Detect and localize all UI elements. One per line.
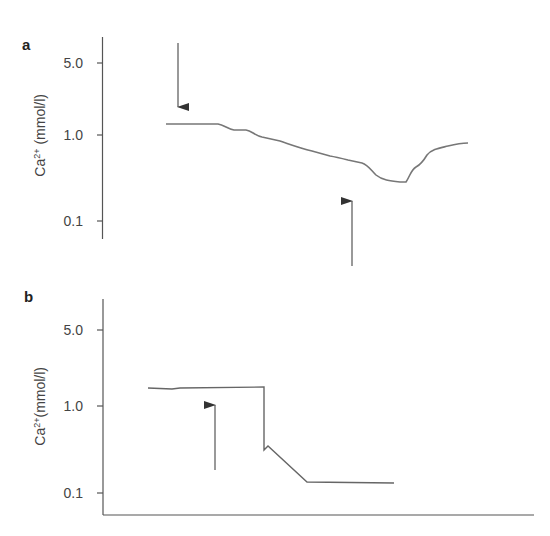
panel-b-trace [148,387,394,483]
panel-a-trace [166,124,468,182]
chart-canvas [0,0,550,536]
panel-a-y-axis [97,37,103,239]
